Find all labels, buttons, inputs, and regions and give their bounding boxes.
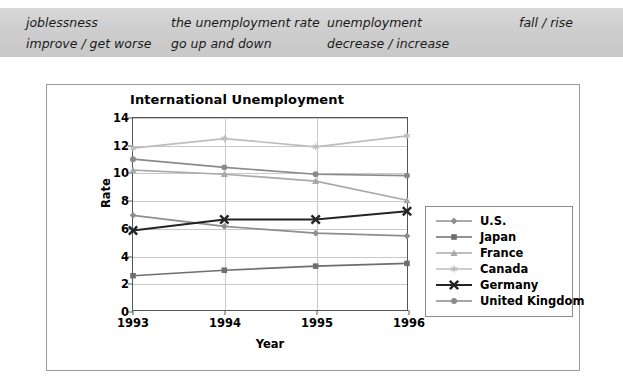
x-tick-label: 1994 xyxy=(209,316,241,330)
data-point-marker-square xyxy=(130,273,136,279)
legend-label: Japan xyxy=(480,230,516,244)
vocabulary-band: joblessness improve / get worse the unem… xyxy=(0,8,623,57)
vocab-term: joblessness xyxy=(26,12,151,33)
data-point-marker-square xyxy=(451,234,457,240)
y-tick-label: 14 xyxy=(113,111,129,125)
x-tick-mark xyxy=(133,310,134,315)
legend-item-germany[interactable]: Germany xyxy=(426,277,572,293)
chart-container: International Unemployment Rate Year 024… xyxy=(46,84,580,371)
vocab-term: go up and down xyxy=(171,33,320,54)
vocab-term: unemployment xyxy=(327,12,449,33)
x-tick-mark xyxy=(409,310,410,315)
data-point-marker-square xyxy=(222,267,228,273)
series-line xyxy=(133,263,407,275)
series-canada xyxy=(129,131,411,152)
legend-item-japan[interactable]: Japan xyxy=(426,229,572,245)
x-axis-label: Year xyxy=(132,337,408,351)
data-point-marker-circle xyxy=(130,156,136,162)
data-point-marker-diamond xyxy=(130,212,137,219)
x-tick-mark xyxy=(317,310,318,315)
data-point-marker-square xyxy=(404,261,410,267)
legend-item-france[interactable]: France xyxy=(426,245,572,261)
data-point-marker-diamond xyxy=(221,223,228,230)
vocab-term: the unemployment rate xyxy=(171,12,320,33)
data-point-marker-diamond xyxy=(404,233,411,240)
legend-swatch-icon xyxy=(434,262,474,276)
legend-swatch-icon xyxy=(434,294,474,308)
vocab-column-4: fall / rise xyxy=(519,12,573,33)
y-axis-label: Rate xyxy=(99,178,113,208)
vocab-term: decrease / increase xyxy=(327,33,449,54)
vocab-term: fall / rise xyxy=(519,12,573,33)
data-point-marker-circle xyxy=(451,298,457,304)
series-japan xyxy=(130,261,410,279)
legend-swatch-icon xyxy=(434,278,474,292)
x-tick-label: 1995 xyxy=(301,316,333,330)
legend-item-u-s[interactable]: U.S. xyxy=(426,213,572,229)
x-tick-label: 1993 xyxy=(117,316,149,330)
y-tick-label: 12 xyxy=(113,139,129,153)
chart-legend: U.S.JapanFranceCanadaGermanyUnited Kingd… xyxy=(425,206,573,317)
legend-label: Germany xyxy=(480,278,538,292)
legend-swatch-icon xyxy=(434,246,474,260)
legend-label: France xyxy=(480,246,523,260)
data-point-marker-diamond xyxy=(312,230,319,237)
vocab-column-3: unemployment decrease / increase xyxy=(327,12,449,54)
x-tick-mark xyxy=(225,310,226,315)
legend-label: Canada xyxy=(480,262,528,276)
legend-item-canada[interactable]: Canada xyxy=(426,261,572,277)
data-point-marker-circle xyxy=(404,173,410,179)
plot-area: 024681012141993199419951996 xyxy=(132,117,408,311)
y-tick-label: 10 xyxy=(113,166,129,180)
x-tick-label: 1996 xyxy=(393,316,425,330)
vocab-column-2: the unemployment rate go up and down xyxy=(171,12,320,54)
legend-label: United Kingdom xyxy=(480,294,584,308)
series-line xyxy=(133,136,407,148)
series-line xyxy=(133,159,407,175)
series-united-kingdom xyxy=(130,156,410,178)
legend-item-united-kingdom[interactable]: United Kingdom xyxy=(426,293,572,309)
data-point-marker-square xyxy=(313,263,319,269)
legend-swatch-icon xyxy=(434,230,474,244)
vocab-column-1: joblessness improve / get worse xyxy=(26,12,151,54)
data-point-marker-circle xyxy=(313,171,319,177)
vocab-term: improve / get worse xyxy=(26,33,151,54)
legend-label: U.S. xyxy=(480,214,506,228)
legend-swatch-icon xyxy=(434,214,474,228)
chart-title: International Unemployment xyxy=(47,92,427,107)
data-point-marker-circle xyxy=(221,164,227,170)
series-france xyxy=(129,167,410,204)
data-point-marker-diamond xyxy=(451,218,458,225)
series-layer xyxy=(133,118,407,310)
